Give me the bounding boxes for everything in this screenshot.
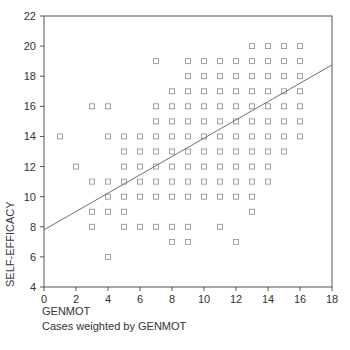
data-point <box>298 59 303 64</box>
data-point <box>154 134 159 139</box>
x-axis-title: GENMOT <box>42 305 90 317</box>
data-point <box>154 119 159 124</box>
x-tick-label: 12 <box>230 293 242 305</box>
data-point <box>250 149 255 154</box>
data-point <box>266 89 271 94</box>
data-point <box>58 134 63 139</box>
data-point <box>218 89 223 94</box>
data-point <box>170 239 175 244</box>
data-point <box>186 239 191 244</box>
data-point <box>170 134 175 139</box>
data-point <box>282 44 287 49</box>
x-tick-label: 8 <box>169 293 175 305</box>
x-tick-label: 14 <box>262 293 274 305</box>
data-point <box>170 89 175 94</box>
data-point <box>138 194 143 199</box>
data-point <box>266 179 271 184</box>
y-tick-label: 20 <box>24 40 36 52</box>
data-point <box>250 59 255 64</box>
data-point <box>122 224 127 229</box>
data-point <box>154 179 159 184</box>
weight-note: Cases weighted by GENMOT <box>42 320 186 332</box>
data-point <box>186 59 191 64</box>
y-tick-label: 16 <box>24 100 36 112</box>
data-point <box>186 194 191 199</box>
y-tick-label: 22 <box>24 10 36 22</box>
data-point <box>250 119 255 124</box>
data-point <box>170 179 175 184</box>
y-axis-title: SELF-EFFICACY <box>4 201 16 287</box>
data-point <box>250 164 255 169</box>
data-point <box>250 179 255 184</box>
data-point <box>234 89 239 94</box>
x-tick-label: 2 <box>73 293 79 305</box>
data-point <box>282 119 287 124</box>
x-tick-label: 6 <box>137 293 143 305</box>
data-point <box>282 74 287 79</box>
data-point <box>90 209 95 214</box>
data-point <box>122 209 127 214</box>
data-point <box>74 164 79 169</box>
data-point <box>186 164 191 169</box>
data-point <box>170 164 175 169</box>
data-point <box>234 164 239 169</box>
data-point <box>266 44 271 49</box>
data-point <box>202 149 207 154</box>
data-point <box>266 149 271 154</box>
data-point <box>282 59 287 64</box>
x-tick-label: 16 <box>294 293 306 305</box>
data-point <box>234 179 239 184</box>
data-point <box>218 104 223 109</box>
data-point <box>170 224 175 229</box>
x-tick-label: 4 <box>105 293 111 305</box>
data-point <box>250 74 255 79</box>
data-point <box>298 134 303 139</box>
data-point <box>234 59 239 64</box>
regression-line <box>44 65 332 230</box>
data-point <box>282 104 287 109</box>
x-tick-label: 18 <box>326 293 338 305</box>
data-point <box>106 179 111 184</box>
data-point <box>170 104 175 109</box>
plot-frame <box>44 16 332 287</box>
y-tick-label: 14 <box>24 130 36 142</box>
data-point <box>202 119 207 124</box>
data-point <box>170 194 175 199</box>
data-point <box>186 179 191 184</box>
data-point <box>186 104 191 109</box>
data-point <box>234 194 239 199</box>
data-point <box>186 149 191 154</box>
data-point <box>90 104 95 109</box>
data-point <box>266 104 271 109</box>
data-point <box>186 119 191 124</box>
x-tick-label: 0 <box>41 293 47 305</box>
data-point <box>106 194 111 199</box>
data-point <box>266 134 271 139</box>
data-point <box>250 89 255 94</box>
data-point <box>202 179 207 184</box>
data-point <box>266 119 271 124</box>
data-point <box>218 194 223 199</box>
data-point <box>298 89 303 94</box>
data-point <box>234 149 239 154</box>
data-point <box>218 134 223 139</box>
data-point <box>234 239 239 244</box>
data-point <box>282 134 287 139</box>
data-point <box>106 134 111 139</box>
data-point <box>186 224 191 229</box>
data-point <box>218 59 223 64</box>
data-point <box>298 104 303 109</box>
data-point <box>218 74 223 79</box>
data-point <box>250 134 255 139</box>
data-point <box>138 134 143 139</box>
data-point <box>234 74 239 79</box>
x-axis: 024681012141618 <box>41 287 338 305</box>
data-point <box>250 104 255 109</box>
data-point <box>202 74 207 79</box>
data-point <box>298 119 303 124</box>
data-point <box>90 224 95 229</box>
data-point <box>266 59 271 64</box>
plot-border <box>44 16 332 287</box>
data-point <box>122 164 127 169</box>
data-point <box>202 104 207 109</box>
